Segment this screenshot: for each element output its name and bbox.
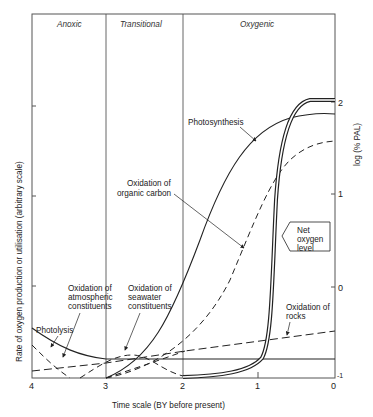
label-seawater-2: seawater [128,293,161,302]
x-tick-label: 1 [255,381,260,391]
y2-tick-label: 2 [338,98,343,108]
region-label-oxygenic: Oxygenic [240,20,274,29]
y2-tick-label: 0 [338,283,343,293]
arrow-photosynthesis [240,127,256,141]
y2-tick-label: -1 [337,372,343,379]
label-atmospheric-1: Oxidation of [68,284,112,293]
region-label-transitional: Transitional [120,20,162,29]
x-tick-label: 2 [180,381,185,391]
curve-rocks-left [106,351,185,378]
arrow-seawater [125,313,140,350]
curve-atmospheric [32,345,70,378]
y-axis-label: Rate of oxygen production or utilisation… [15,161,24,362]
x-axis-label: Time scale (BY before present) [112,401,225,410]
curve-rocks [32,331,335,371]
label-rocks-2: rocks [286,312,306,321]
label-seawater-1: Oxidation of [128,284,172,293]
label-rocks-1: Oxidation of [286,303,330,312]
region-label-anoxic: Anoxic [56,20,82,29]
x-tick-label: 4 [29,381,34,391]
label-net-1: Net [297,226,310,235]
label-atmospheric-2: atmospheric [68,293,113,302]
label-organic-carbon-2: organic carbon [117,189,172,198]
chart: Anoxic Transitional Oxygenic 2 1 0 -1 4 … [0,0,373,417]
label-seawater-3: constituents [128,302,172,311]
label-atmospheric-3: constituents [68,302,112,311]
label-net-2: oxygen [297,235,324,244]
y2-axis-label: log (% PAL) [353,123,362,166]
arrow-rocks [287,322,290,335]
label-organic-carbon-1: Oxidation of [127,179,171,188]
label-net-3: level [297,244,314,253]
arrow-organic-carbon [174,194,244,248]
x-tick-label: 0 [331,381,336,391]
curve-organic-carbon [106,141,335,378]
y2-tick-label: 1 [338,189,343,199]
label-photolysis: Photolysis [36,326,73,335]
label-photosynthesis: Photosynthesis [188,118,244,127]
curve-photolysis [32,328,335,359]
x-tick-label: 3 [103,381,108,391]
